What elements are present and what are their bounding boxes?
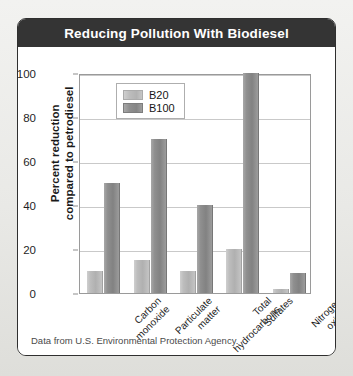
y-axis-tick-label: 100 <box>17 68 36 80</box>
y-axis-tick-label: 80 <box>17 112 36 124</box>
y-axis-title-line-1: Percent reduction <box>48 53 62 253</box>
y-axis-tick-mark <box>73 206 78 207</box>
bar-b20-total-hydrocarbons <box>180 271 196 293</box>
plot-area <box>79 74 311 294</box>
page-title: Reducing Pollution With Biodiesel <box>64 26 289 41</box>
source-note: Data from U.S. Environmental Protection … <box>31 335 238 346</box>
legend: B20 B100 <box>116 83 185 119</box>
figure-title-bar: Reducing Pollution With Biodiesel <box>18 19 335 47</box>
page-background: Reducing Pollution With Biodiesel Percen… <box>0 0 353 376</box>
bar-b100-sulfates <box>243 73 259 293</box>
bar-group <box>87 75 119 293</box>
bars-layer <box>80 75 310 293</box>
y-axis-tick-mark <box>73 74 78 75</box>
legend-swatch-b20-icon <box>123 90 143 100</box>
bar-b20-nitrogen-oxides <box>273 289 289 293</box>
y-axis-tick-mark <box>73 250 78 251</box>
figure-card: Reducing Pollution With Biodiesel Percen… <box>17 18 336 356</box>
bar-b20-sulfates <box>226 249 242 293</box>
y-axis-title: Percent reduction compared to petrodiese… <box>48 53 77 253</box>
legend-label-b20: B20 <box>149 89 169 101</box>
y-axis-tick-mark <box>73 118 78 119</box>
y-axis-tick-label: 40 <box>17 200 36 212</box>
bar-b100-total-hydrocarbons <box>197 205 213 293</box>
bar-b20-carbon-monoxide <box>87 271 103 293</box>
x-axis-labels: CarbonmonoxideParticulatematterTotalhydr… <box>18 295 335 356</box>
legend-item-b20: B20 <box>123 88 175 101</box>
bar-b20-particulate-matter <box>134 260 150 293</box>
y-axis-tick-mark <box>73 162 78 163</box>
legend-item-b100: B100 <box>123 101 175 114</box>
x-axis-label-nitrogen-oxides: Nitrogenoxides <box>309 295 336 339</box>
bar-group <box>273 75 305 293</box>
y-axis-title-line-2: compared to petrodiesel <box>62 53 76 253</box>
bar-b100-nitrogen-oxides <box>290 273 306 293</box>
bar-group <box>180 75 212 293</box>
y-axis-tick-label: 20 <box>17 244 36 256</box>
legend-swatch-b100-icon <box>123 103 143 113</box>
legend-label-b100: B100 <box>149 102 175 114</box>
chart-body: Percent reduction compared to petrodiese… <box>18 47 335 355</box>
bar-b100-carbon-monoxide <box>104 183 120 293</box>
bar-b100-particulate-matter <box>151 139 167 293</box>
y-axis-tick-label: 60 <box>17 156 36 168</box>
bar-group <box>226 75 258 293</box>
